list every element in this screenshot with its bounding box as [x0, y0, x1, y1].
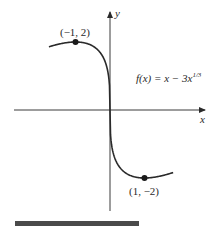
critical-point-marker	[73, 39, 79, 45]
critical-point-marker	[142, 175, 148, 181]
divider-bar	[15, 221, 139, 226]
y-axis-label: y	[115, 8, 120, 19]
function-graph	[0, 0, 219, 228]
x-axis-label: x	[200, 114, 205, 125]
function-annotation: f(x) = x − 3x1/3	[136, 73, 201, 84]
min-point-label: (1, −2)	[129, 186, 159, 197]
max-point-label: (−1, 2)	[60, 27, 90, 38]
